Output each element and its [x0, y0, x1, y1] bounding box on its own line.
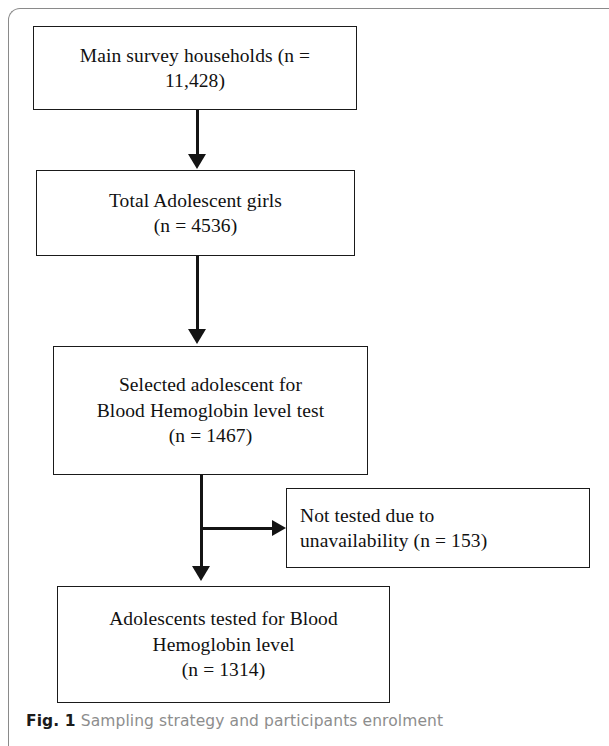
flow-node-total-girls-line-2: (n = 4536) — [154, 213, 238, 238]
flow-node-adolescents-tested-line-3: (n = 1314) — [182, 657, 266, 682]
flow-node-adolescents-tested-line-1: Adolescents tested for Blood — [109, 606, 338, 631]
figure-caption-label: Fig. 1 — [26, 712, 76, 730]
flow-node-selected-adolescent: Selected adolescent for Blood Hemoglobin… — [53, 346, 368, 475]
frame-corner — [8, 8, 21, 21]
arrow-down-icon — [188, 154, 206, 169]
connector-total-girls-to-selected — [196, 256, 199, 330]
arrow-down-icon — [192, 566, 210, 581]
flow-node-not-tested-line-2: unavailability (n = 153) — [300, 528, 487, 553]
flow-node-adolescents-tested: Adolescents tested for Blood Hemoglobin … — [57, 586, 390, 703]
arrow-right-icon — [272, 520, 286, 536]
flow-node-main-survey-line-2: 11,428) — [165, 68, 225, 93]
figure-container: Main survey households (n = 11,428) Tota… — [0, 0, 609, 746]
flow-node-selected-adolescent-line-1: Selected adolescent for — [119, 372, 302, 397]
flow-node-selected-adolescent-line-3: (n = 1467) — [169, 423, 253, 448]
connector-main-survey-to-total-girls — [196, 110, 199, 155]
flow-node-main-survey-line-1: Main survey households (n = — [80, 43, 310, 68]
connector-selected-to-tested — [200, 475, 203, 567]
flow-node-adolescents-tested-line-2: Hemoglobin level — [153, 632, 295, 657]
frame-top-border — [20, 8, 609, 9]
connector-selected-to-not-tested — [202, 527, 274, 530]
flow-node-total-girls: Total Adolescent girls (n = 4536) — [36, 170, 355, 256]
figure-caption-text: Sampling strategy and participants enrol… — [81, 712, 443, 730]
flow-node-total-girls-line-1: Total Adolescent girls — [109, 188, 282, 213]
flow-node-selected-adolescent-line-2: Blood Hemoglobin level test — [97, 398, 324, 423]
flow-node-main-survey: Main survey households (n = 11,428) — [33, 26, 357, 110]
figure-caption: Fig. 1 Sampling strategy and participant… — [26, 712, 443, 730]
flow-node-not-tested: Not tested due to unavailability (n = 15… — [286, 488, 590, 568]
frame-left-border — [8, 20, 9, 746]
arrow-down-icon — [188, 329, 206, 344]
flow-node-not-tested-line-1: Not tested due to — [300, 503, 434, 528]
